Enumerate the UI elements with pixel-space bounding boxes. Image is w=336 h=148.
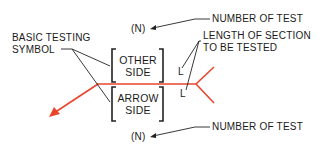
label-line: BASIC TESTING <box>12 32 91 44</box>
tail-lower <box>196 84 214 103</box>
label-line: SIDE <box>114 104 162 116</box>
tail-upper <box>196 67 214 84</box>
label-line: LENGTH OF SECTION <box>203 30 311 42</box>
arrowhead-icon <box>49 107 60 117</box>
label-line: TO BE TESTED <box>203 42 311 54</box>
length-label: LENGTH OF SECTION TO BE TESTED <box>203 30 311 54</box>
number-top-marker: (N) <box>131 23 145 35</box>
arrow-side-label: ARROW SIDE <box>114 92 162 116</box>
label-line: SIDE <box>114 66 162 78</box>
arrow-line <box>54 84 98 113</box>
label-line: OTHER <box>114 54 162 66</box>
leader-arrowhead-icon <box>150 25 156 30</box>
leader-arrowhead-icon <box>150 133 156 138</box>
testing-symbol-diagram: BASIC TESTING SYMBOL (N) NUMBER OF TEST … <box>0 0 336 148</box>
length-marker-other-side: L <box>178 66 184 78</box>
label-line: SYMBOL <box>12 44 91 56</box>
number-top-label: NUMBER OF TEST <box>212 13 303 25</box>
number-bottom-label: NUMBER OF TEST <box>212 121 303 133</box>
label-line: ARROW <box>114 92 162 104</box>
length-marker-arrow-side: L <box>180 88 186 100</box>
number-bottom-marker: (N) <box>131 131 145 143</box>
other-side-label: OTHER SIDE <box>114 54 162 78</box>
basic-testing-symbol-label: BASIC TESTING SYMBOL <box>12 32 91 56</box>
